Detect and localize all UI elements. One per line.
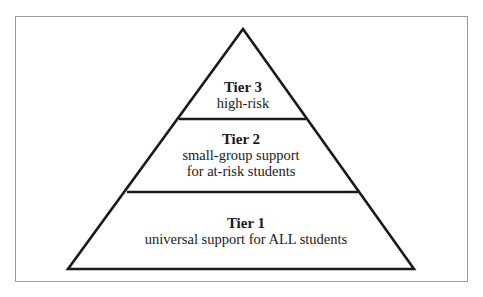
tier-1-description: universal support for ALL students (126, 231, 366, 247)
tier-3-section: Tier 3 high-risk (123, 79, 363, 111)
tier-3-description: high-risk (123, 95, 363, 111)
tier-2-description-line-2: for at-risk students (121, 163, 361, 179)
tier-1-title: Tier 1 (126, 215, 366, 231)
tier-1-section: Tier 1 universal support for ALL student… (126, 215, 366, 247)
tier-2-description-line-1: small-group support (121, 147, 361, 163)
tier-2-title: Tier 2 (121, 131, 361, 147)
tier-2-section: Tier 2 small-group support for at-risk s… (121, 131, 361, 179)
tier-3-title: Tier 3 (123, 79, 363, 95)
